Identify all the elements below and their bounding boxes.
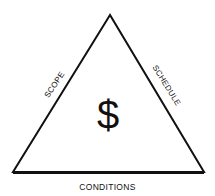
dollar-sign-symbol: $: [88, 92, 128, 138]
base-label-conditions: CONDITIONS: [60, 183, 155, 192]
project-triangle-diagram: SCOPE SCHEDULE $ CONDITIONS: [0, 0, 215, 196]
